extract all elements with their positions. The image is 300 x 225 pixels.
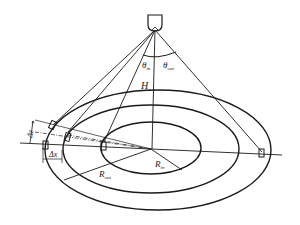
theta-in-label: θin [142,60,151,71]
marker-outer-right [259,149,264,157]
r-out-label: Rout [98,169,112,180]
inner-ellipse [101,122,201,174]
r-in-label: Rin [154,159,165,170]
angle-arc [143,52,176,57]
camera-icon [148,15,162,31]
ray-to-outer-left [53,30,155,125]
delta-x-label: Δx [48,150,58,159]
outer-ellipse [45,90,271,210]
diagram-canvas: θin θout Hc Δz Δx Rin Rout [0,0,300,225]
height-label: Hc [140,80,151,92]
theta-out-label: θout [163,60,174,71]
delta-z-label: Δz [25,128,36,139]
